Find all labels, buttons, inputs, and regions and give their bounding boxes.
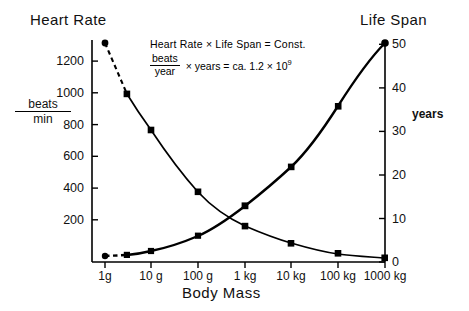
left-axis-unit-numerator: beats <box>15 98 71 112</box>
y-tick-label-left-1000: 1000 <box>42 87 84 100</box>
y-tick-label-left-600: 600 <box>42 150 84 163</box>
heart-rate-dashed-segment <box>105 43 127 94</box>
page-title-heart-rate: Heart Rate <box>30 12 107 27</box>
y-tick-label-right-30: 30 <box>392 125 426 138</box>
x-tick-label-10g: 10 g <box>124 270 178 282</box>
y-tick-label-right-40: 40 <box>392 82 426 95</box>
right-axis-unit-label: years <box>412 108 443 120</box>
y-tick-label-right-50: 50 <box>392 38 426 51</box>
x-tick-label-1000kg: 1000 kg <box>358 270 412 282</box>
chart-annotation: Heart Rate × Life Span = Const. beats ye… <box>150 38 306 77</box>
annotation-equation-text: × years = ca. 1.2 × 10 <box>186 59 288 71</box>
y-tick-label-left-400: 400 <box>42 182 84 195</box>
y-tick-label-left-200: 200 <box>42 214 84 227</box>
annotation-fraction-numerator: beats <box>150 53 180 66</box>
x-axis-title: Body Mass <box>182 285 261 300</box>
y-tick-label-right-10: 10 <box>392 213 426 226</box>
annotation-equation-tail: × years = ca. 1.2 × 109 <box>186 59 292 72</box>
left-axis-ticks <box>92 61 98 220</box>
x-tick-label-10kg: 10 kg <box>264 270 318 282</box>
annotation-fraction: beats year <box>150 53 180 77</box>
y-tick-label-right-20: 20 <box>392 169 426 182</box>
y-tick-label-left-800: 800 <box>42 119 84 132</box>
chart-figure: Heart Rate Life Span beats min years Bod… <box>0 0 469 311</box>
x-tick-label-100kg: 100 kg <box>311 270 365 282</box>
annotation-exponent: 9 <box>288 58 292 67</box>
page-title-life-span: Life Span <box>360 12 427 27</box>
annotation-line-2: beats year × years = ca. 1.2 × 109 <box>150 53 306 77</box>
x-tick-label-100g: 100 g <box>171 270 225 282</box>
right-axis-ticks <box>379 44 385 262</box>
y-tick-label-right-0: 0 <box>392 256 426 269</box>
heart-rate-curve <box>127 94 385 258</box>
annotation-fraction-denominator: year <box>150 66 180 78</box>
life-span-dashed-segment <box>105 255 127 256</box>
annotation-line-1: Heart Rate × Life Span = Const. <box>150 38 306 50</box>
y-tick-label-left-1200: 1200 <box>42 55 84 68</box>
x-axis-ticks <box>105 262 385 268</box>
